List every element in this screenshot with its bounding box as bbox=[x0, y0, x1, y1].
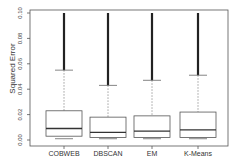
iqr-box bbox=[90, 117, 126, 137]
y-tick-label: 0.04 bbox=[17, 83, 23, 95]
y-tick-label: 0.02 bbox=[17, 108, 23, 120]
box-em bbox=[134, 13, 170, 139]
box-k-means bbox=[180, 13, 216, 139]
y-tick-label: 0.06 bbox=[17, 57, 23, 69]
iqr-box bbox=[134, 116, 170, 138]
box-cobweb bbox=[46, 13, 82, 139]
y-tick-label: 0.10 bbox=[17, 7, 23, 19]
x-tick-label: COBWEB bbox=[48, 150, 79, 157]
x-tick-label: K-Means bbox=[184, 150, 213, 157]
iqr-box bbox=[180, 112, 216, 137]
y-tick-label: 0.08 bbox=[17, 32, 23, 44]
y-axis-label: Squared Error bbox=[8, 29, 17, 109]
box-dbscan bbox=[90, 13, 126, 139]
x-tick-label: EM bbox=[147, 150, 158, 157]
iqr-box bbox=[46, 111, 82, 136]
x-tick-label: DBSCAN bbox=[93, 150, 122, 157]
y-tick-label: 0.00 bbox=[17, 134, 23, 146]
boxplot-chart: 0.000.020.040.060.080.10 COBWEBDBSCANEMK… bbox=[0, 0, 236, 163]
